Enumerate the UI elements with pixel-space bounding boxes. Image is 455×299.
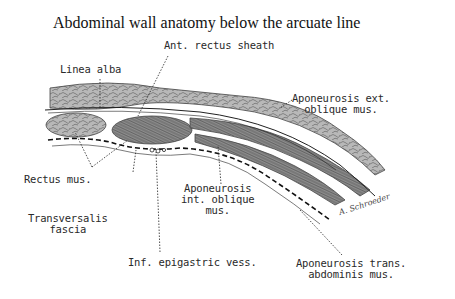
label-aponeurosis-ext-oblique: Aponeurosis ext. oblique mus. (292, 93, 390, 115)
label-linea-alba: Linea alba (60, 64, 121, 75)
label-aponeurosis-trans-abdominis: Aponeurosis trans. abdominis mus. (296, 258, 406, 280)
label-aponeurosis-int-oblique: Aponeurosis int. oblique mus. (181, 183, 254, 216)
label-transversalis-fascia: Transversalis fascia (28, 213, 108, 235)
label-ant-rectus-sheath: Ant. rectus sheath (164, 40, 274, 51)
epigastric-vessels (150, 148, 166, 153)
label-rectus-mus: Rectus mus. (24, 174, 91, 185)
rectus-muscle-right (112, 116, 192, 144)
label-inf-epigastric-vess: Inf. epigastric vess. (128, 257, 257, 268)
